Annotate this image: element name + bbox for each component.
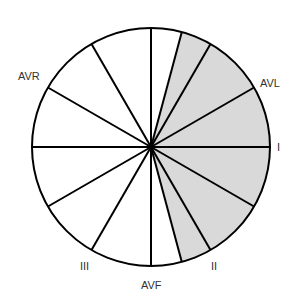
hexaxial-diagram: I AVL AVR III II AVF xyxy=(0,0,298,306)
label-lead-avf: AVF xyxy=(141,279,162,291)
label-lead-avl: AVL xyxy=(260,77,280,89)
label-lead-i: I xyxy=(277,141,280,153)
label-lead-ii: II xyxy=(211,260,217,272)
axis-ray xyxy=(92,44,152,147)
axis-ray xyxy=(92,147,152,250)
axis-ray xyxy=(48,88,151,148)
axis-ray xyxy=(48,147,151,207)
label-lead-iii: III xyxy=(80,260,89,272)
label-lead-avr: AVR xyxy=(18,70,40,82)
center-point xyxy=(148,144,154,150)
